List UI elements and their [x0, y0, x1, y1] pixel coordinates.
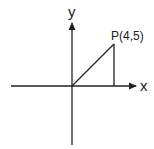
y-axis-label: y — [68, 3, 76, 20]
coordinate-diagram: y x P(4,5) — [0, 0, 154, 149]
segment-origin-to-p — [72, 44, 114, 86]
point-label: P(4,5) — [111, 29, 144, 43]
x-axis-label: x — [140, 77, 148, 94]
